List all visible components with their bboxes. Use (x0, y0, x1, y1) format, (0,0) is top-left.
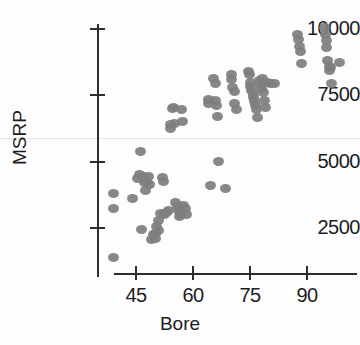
x-axis-tick-label: 75 (228, 285, 272, 305)
data-point (153, 226, 164, 235)
y-axis-tick (90, 227, 105, 229)
data-point (210, 79, 221, 88)
data-point (135, 147, 146, 156)
y-axis-title: MSRP (10, 93, 29, 183)
data-point (231, 105, 242, 114)
x-axis-tick (249, 266, 251, 280)
y-axis-tick (90, 161, 105, 163)
data-point (177, 117, 188, 126)
x-axis-line (114, 273, 357, 275)
data-point (321, 43, 332, 52)
data-point (269, 79, 280, 88)
x-axis-tick-label: 60 (171, 285, 215, 305)
data-point (108, 189, 119, 198)
data-point (220, 184, 231, 193)
data-point (229, 87, 240, 96)
scatter-chart-figure: 25005000750010000 45607590 MSRP Bore (0, 0, 360, 345)
data-point (108, 204, 119, 213)
data-point (334, 58, 345, 67)
data-point (213, 157, 224, 166)
data-point (136, 225, 147, 234)
y-axis-line (97, 24, 99, 277)
data-point (127, 194, 138, 203)
data-point (260, 103, 271, 112)
data-point (326, 79, 337, 88)
y-axis-tick (90, 28, 105, 30)
plot-area: 25005000750010000 45607590 (0, 0, 360, 345)
y-axis-tick-label: 5000 (276, 151, 360, 171)
data-point (252, 113, 263, 122)
x-axis-tick (192, 266, 194, 280)
x-axis-tick-label: 45 (114, 285, 158, 305)
data-point (150, 234, 161, 243)
data-point (296, 59, 307, 68)
data-point (295, 47, 306, 56)
y-axis-tick-label: 10000 (276, 18, 360, 38)
x-axis-tick (306, 266, 308, 280)
x-axis-tick-label: 90 (285, 285, 329, 305)
data-point (176, 105, 187, 114)
x-axis-tick (135, 266, 137, 280)
data-point (158, 177, 169, 186)
data-point (212, 112, 223, 121)
data-point (211, 101, 222, 110)
data-point (144, 180, 155, 189)
data-point (205, 181, 216, 190)
data-point (108, 253, 119, 262)
y-axis-tick-label: 2500 (276, 217, 360, 237)
y-axis-tick (90, 94, 105, 96)
data-point (181, 210, 192, 219)
y-axis-tick-label: 7500 (276, 84, 360, 104)
x-axis-title: Bore (0, 314, 360, 333)
